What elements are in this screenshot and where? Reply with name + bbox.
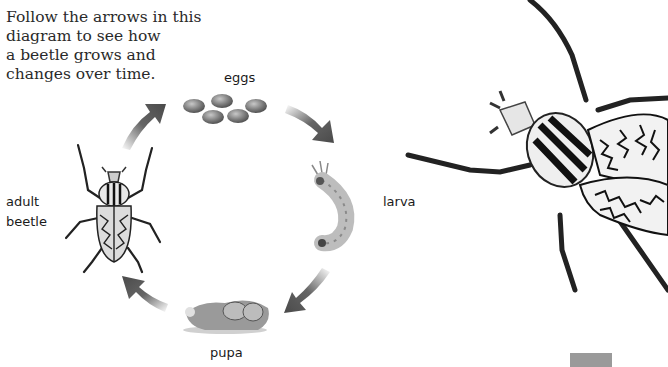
arrow-adult-to-eggs-icon xyxy=(122,104,166,150)
adult-beetle-icon xyxy=(66,145,160,272)
large-beetle-illustration xyxy=(408,0,668,290)
pupa-icon xyxy=(183,300,269,334)
larva-icon xyxy=(312,161,346,247)
arrow-pupa-to-adult-icon xyxy=(122,276,168,312)
footer-bar xyxy=(570,353,612,367)
arrow-eggs-to-larva-icon xyxy=(285,105,334,143)
life-cycle-diagram xyxy=(0,0,668,367)
arrow-larva-to-pupa-icon xyxy=(284,268,330,313)
eggs-icon xyxy=(183,94,267,124)
